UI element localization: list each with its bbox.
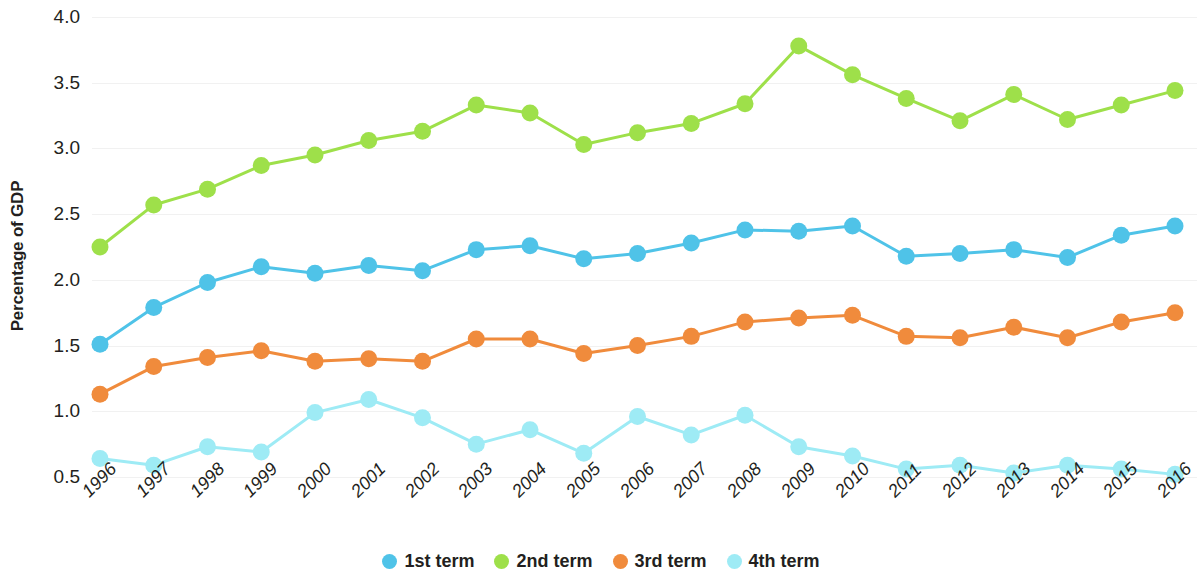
- data-point: [683, 328, 700, 345]
- data-point: [898, 328, 915, 345]
- chart-legend: 1st term2nd term3rd term4th term: [0, 552, 1202, 570]
- data-point: [199, 274, 216, 291]
- data-point: [1005, 86, 1022, 103]
- legend-label: 1st term: [404, 552, 474, 570]
- data-point: [307, 147, 324, 164]
- data-point: [92, 386, 109, 403]
- data-point: [253, 157, 270, 174]
- data-point: [629, 408, 646, 425]
- data-point: [253, 258, 270, 275]
- legend-item-4th-term[interactable]: 4th term: [727, 552, 820, 570]
- data-point: [199, 349, 216, 366]
- data-point: [414, 262, 431, 279]
- data-point: [360, 132, 377, 149]
- data-point: [1059, 249, 1076, 266]
- data-point: [1005, 241, 1022, 258]
- data-point: [307, 265, 324, 282]
- data-point: [1167, 304, 1184, 321]
- data-point: [575, 136, 592, 153]
- data-point: [1167, 217, 1184, 234]
- data-point: [1113, 313, 1130, 330]
- data-point: [683, 235, 700, 252]
- data-point: [898, 248, 915, 265]
- data-point: [145, 299, 162, 316]
- data-point: [737, 407, 754, 424]
- data-point: [790, 223, 807, 240]
- data-point: [360, 350, 377, 367]
- legend-item-2nd-term[interactable]: 2nd term: [494, 552, 592, 570]
- data-point: [952, 245, 969, 262]
- data-point: [92, 239, 109, 256]
- data-point: [898, 90, 915, 107]
- data-point: [844, 66, 861, 83]
- data-point: [1005, 319, 1022, 336]
- data-point: [414, 353, 431, 370]
- data-point: [468, 331, 485, 348]
- legend-swatch-icon: [727, 554, 742, 569]
- data-point: [468, 97, 485, 114]
- data-point: [629, 337, 646, 354]
- data-point: [1113, 97, 1130, 114]
- data-point: [737, 95, 754, 112]
- data-point: [1059, 329, 1076, 346]
- legend-swatch-icon: [494, 554, 509, 569]
- data-point: [145, 196, 162, 213]
- line-chart: Percentage of GDP 4.03.53.02.52.01.51.00…: [0, 0, 1202, 581]
- legend-item-1st-term[interactable]: 1st term: [382, 552, 474, 570]
- data-point: [360, 391, 377, 408]
- data-point: [1059, 111, 1076, 128]
- legend-label: 3rd term: [635, 552, 707, 570]
- data-point: [414, 409, 431, 426]
- series-line: [100, 46, 1175, 247]
- data-point: [307, 404, 324, 421]
- legend-label: 2nd term: [516, 552, 592, 570]
- data-point: [952, 112, 969, 129]
- data-point: [468, 241, 485, 258]
- legend-item-3rd-term[interactable]: 3rd term: [613, 552, 707, 570]
- data-point: [952, 329, 969, 346]
- data-point: [1167, 82, 1184, 99]
- legend-label: 4th term: [749, 552, 820, 570]
- data-point: [199, 181, 216, 198]
- data-point: [844, 307, 861, 324]
- data-point: [414, 123, 431, 140]
- series-2nd-term: [92, 37, 1184, 255]
- data-point: [790, 309, 807, 326]
- data-point: [737, 221, 754, 238]
- data-point: [307, 353, 324, 370]
- data-point: [522, 331, 539, 348]
- data-point: [844, 217, 861, 234]
- data-point: [790, 37, 807, 54]
- legend-swatch-icon: [382, 554, 397, 569]
- data-point: [575, 250, 592, 267]
- series-3rd-term: [92, 304, 1184, 402]
- data-point: [629, 124, 646, 141]
- data-point: [253, 342, 270, 359]
- data-point: [737, 313, 754, 330]
- data-point: [575, 345, 592, 362]
- data-point: [522, 104, 539, 121]
- legend-swatch-icon: [613, 554, 628, 569]
- plot-area: [0, 0, 1202, 581]
- data-point: [360, 257, 377, 274]
- data-point: [629, 245, 646, 262]
- data-point: [1113, 227, 1130, 244]
- data-point: [683, 115, 700, 132]
- data-point: [145, 358, 162, 375]
- data-point: [522, 237, 539, 254]
- data-point: [92, 336, 109, 353]
